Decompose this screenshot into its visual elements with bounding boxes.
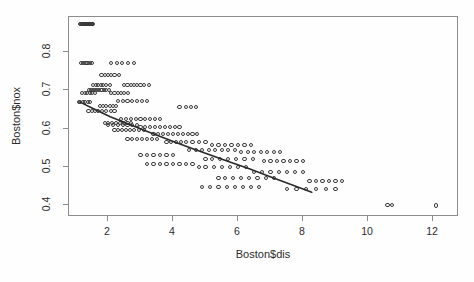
data-point — [264, 176, 268, 180]
data-point — [120, 61, 124, 65]
data-point — [112, 109, 116, 113]
data-point — [126, 91, 130, 95]
x-axis-tick — [107, 216, 108, 221]
data-point — [116, 99, 120, 103]
data-point — [90, 61, 94, 65]
data-point — [239, 176, 243, 180]
data-point — [158, 153, 162, 157]
data-point — [194, 148, 198, 152]
data-point — [231, 176, 235, 180]
data-point — [166, 132, 170, 136]
data-point — [277, 170, 281, 174]
data-point — [189, 105, 193, 109]
data-point — [213, 148, 217, 152]
data-point — [164, 140, 168, 144]
x-axis-tick — [237, 216, 238, 221]
y-axis-tick — [63, 89, 68, 90]
data-point — [111, 123, 115, 127]
data-point — [158, 125, 162, 129]
data-point — [187, 148, 191, 152]
data-point — [285, 187, 289, 191]
data-point — [184, 162, 188, 166]
data-point — [88, 100, 92, 104]
data-point — [108, 83, 112, 87]
data-point — [116, 123, 120, 127]
data-point — [324, 187, 328, 191]
x-axis-tick-label: 8 — [299, 225, 305, 237]
data-point — [226, 148, 230, 152]
plot-frame — [68, 16, 458, 216]
data-point — [190, 140, 194, 144]
data-point — [203, 140, 207, 144]
y-axis-tick-label: 0.8 — [40, 38, 52, 64]
data-point — [126, 61, 130, 65]
x-axis-tick — [302, 216, 303, 221]
data-point — [106, 123, 110, 127]
data-point — [257, 185, 261, 189]
data-point — [216, 176, 220, 180]
data-point — [197, 140, 201, 144]
data-point — [145, 99, 149, 103]
data-point — [203, 157, 207, 161]
data-point — [252, 150, 256, 154]
data-point — [169, 140, 173, 144]
data-point — [268, 170, 272, 174]
data-point — [130, 137, 134, 141]
y-axis-tick-label: 0.6 — [40, 115, 52, 141]
data-point — [242, 157, 246, 161]
x-axis-tick-label: 10 — [361, 225, 373, 237]
data-point — [223, 143, 227, 147]
data-point — [285, 170, 289, 174]
data-point — [385, 203, 389, 207]
y-axis-tick-label: 0.5 — [40, 153, 52, 179]
data-point — [241, 185, 245, 189]
data-point — [225, 185, 229, 189]
data-point — [304, 187, 308, 191]
data-point — [333, 179, 337, 183]
data-point — [164, 162, 168, 166]
data-point — [145, 153, 149, 157]
data-point — [233, 185, 237, 189]
x-axis-tick — [432, 216, 433, 221]
data-point — [190, 132, 194, 136]
data-point — [177, 162, 181, 166]
data-point — [210, 157, 214, 161]
data-point — [115, 61, 119, 65]
x-axis-tick-label: 6 — [234, 225, 240, 237]
data-point — [171, 132, 175, 136]
data-point — [218, 157, 222, 161]
data-point — [288, 159, 292, 163]
data-point — [91, 22, 95, 26]
data-point — [260, 170, 264, 174]
data-point — [150, 137, 154, 141]
data-point — [340, 179, 344, 183]
data-point — [195, 132, 199, 136]
data-point — [294, 159, 298, 163]
data-point — [208, 185, 212, 189]
data-point — [216, 143, 220, 147]
data-point — [434, 203, 438, 207]
data-point — [151, 132, 155, 136]
data-point — [272, 150, 276, 154]
data-point — [236, 143, 240, 147]
y-axis-tick — [63, 128, 68, 129]
data-point — [148, 125, 152, 129]
data-point — [190, 162, 194, 166]
data-point — [140, 137, 144, 141]
data-point — [301, 170, 305, 174]
data-point — [275, 159, 279, 163]
data-point — [268, 159, 272, 163]
data-point — [229, 143, 233, 147]
data-point — [173, 125, 177, 129]
data-point — [158, 162, 162, 166]
data-point — [239, 150, 243, 154]
data-point — [168, 125, 172, 129]
y-axis-label: Boston$nox — [10, 87, 22, 145]
data-point — [294, 187, 298, 191]
data-point — [223, 176, 227, 180]
data-point — [151, 153, 155, 157]
data-point — [177, 105, 181, 109]
data-point — [181, 132, 185, 136]
data-point — [186, 132, 190, 136]
data-point — [135, 99, 139, 103]
